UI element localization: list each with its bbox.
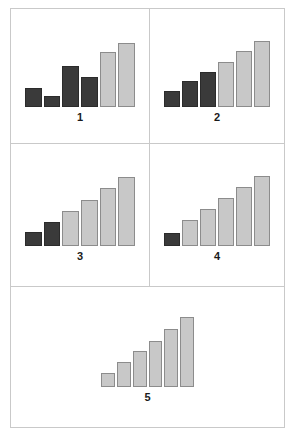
bar [182, 220, 198, 246]
bar [164, 233, 180, 246]
bar [218, 62, 234, 107]
bar [81, 77, 98, 107]
plot-area-4 [150, 144, 284, 286]
bar [200, 209, 216, 246]
bar [236, 187, 252, 246]
bar [118, 43, 135, 107]
bar [254, 41, 270, 107]
chart-panel-2: 2 [150, 9, 284, 143]
bar [81, 200, 98, 246]
bar [133, 351, 147, 387]
bar-group-2 [164, 29, 270, 107]
chart-panel-4: 4 [150, 144, 284, 286]
bar [164, 91, 180, 107]
bar-group-1 [25, 29, 135, 107]
bar [100, 188, 117, 246]
panel-label-2: 2 [150, 111, 284, 123]
bar [62, 211, 79, 246]
bar [149, 341, 163, 387]
chart-panel-1: 1 [11, 9, 149, 143]
bar [180, 317, 194, 387]
bar [62, 66, 79, 107]
bar [117, 362, 131, 387]
bar-group-4 [164, 166, 270, 246]
panel-label-3: 3 [11, 250, 149, 262]
panel-label-1: 1 [11, 111, 149, 123]
bar [101, 373, 115, 387]
panel-label-5: 5 [11, 391, 284, 403]
bar-group-5 [101, 307, 194, 387]
bar [118, 177, 135, 246]
bar [200, 72, 216, 107]
chart-panel-5: 5 [11, 287, 284, 427]
bar [218, 198, 234, 246]
bar [44, 96, 61, 107]
bar [164, 329, 178, 387]
bar-group-3 [25, 166, 135, 246]
bar [25, 88, 42, 108]
figure-panel-grid: 1 2 3 4 5 [10, 8, 285, 428]
bar [100, 52, 117, 107]
plot-area-5 [11, 287, 284, 427]
bar [25, 232, 42, 246]
bar [254, 176, 270, 246]
plot-area-3 [11, 144, 149, 286]
panel-label-4: 4 [150, 250, 284, 262]
bar [44, 222, 61, 246]
chart-panel-3: 3 [11, 144, 149, 286]
bar [236, 51, 252, 107]
bar [182, 81, 198, 107]
